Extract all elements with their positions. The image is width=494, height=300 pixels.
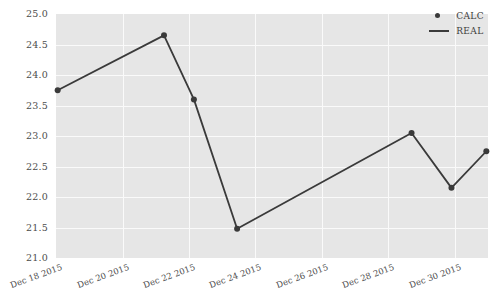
data-point-marker [409, 130, 415, 136]
legend-entry-real: REAL [428, 24, 484, 37]
data-point-marker [234, 226, 240, 232]
legend-label-calc: CALC [456, 11, 484, 21]
data-point-marker [161, 32, 167, 38]
legend: CALC REAL [424, 6, 490, 40]
x-tick-label: Dec 26 2015 [273, 262, 329, 291]
x-tick-label: Dec 22 2015 [140, 262, 196, 291]
series-markers-calc [55, 32, 490, 231]
dot-marker-icon [428, 10, 450, 21]
line-marker-icon [428, 25, 450, 36]
series-line-real [58, 35, 487, 228]
x-tick-label: Dec 20 2015 [74, 262, 130, 291]
data-point-marker [483, 148, 489, 154]
legend-label-real: REAL [456, 26, 483, 36]
x-tick-label: Dec 30 2015 [406, 262, 462, 291]
series-layer [56, 14, 488, 258]
x-tick-label: Dec 24 2015 [207, 262, 263, 291]
data-point-marker [55, 87, 61, 93]
legend-entry-calc: CALC [428, 9, 484, 22]
x-tick-label: Dec 28 2015 [340, 262, 396, 291]
line-chart: 25.024.524.023.523.022.522.021.521.0 Dec… [0, 0, 494, 300]
data-point-marker [448, 185, 454, 191]
data-point-marker [191, 96, 197, 102]
x-tick-label: Dec 18 2015 [7, 262, 63, 291]
